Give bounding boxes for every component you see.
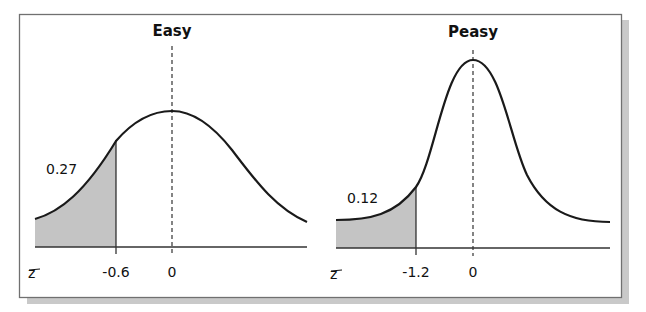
figure: Easy 0.27 z -0.6 0 Peasy 0.12 z -1.2 0	[0, 0, 646, 312]
panel-title-easy: Easy	[152, 22, 191, 40]
tick-label-zero-easy: 0	[168, 264, 177, 280]
area-label-easy: 0.27	[46, 161, 77, 177]
tick-label-cut-peasy: -1.2	[402, 264, 429, 280]
axis-label-z-easy: z	[28, 265, 35, 281]
frame-shadow-right	[621, 20, 629, 304]
area-label-peasy: 0.12	[347, 190, 378, 206]
tick-label-zero-peasy: 0	[469, 264, 478, 280]
tick-label-cut-easy: -0.6	[102, 264, 129, 280]
panel-title-peasy: Peasy	[448, 23, 498, 41]
axis-label-z-peasy: z	[330, 266, 337, 282]
